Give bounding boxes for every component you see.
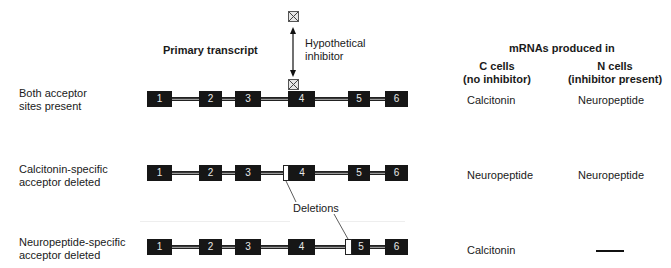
inhibitor-label-line2: inhibitor xyxy=(305,50,344,63)
exon-6: 6 xyxy=(385,165,408,181)
exon-2: 2 xyxy=(199,165,222,181)
row2-condition-line2: acceptor deleted xyxy=(19,176,100,189)
exon-3: 3 xyxy=(235,239,261,255)
row1-condition-line1: Both acceptor xyxy=(19,87,87,100)
inhibitor-label-line1: Hypothetical xyxy=(305,37,366,50)
bound-inhibitor-icon xyxy=(288,79,299,90)
exon-5: 5 xyxy=(352,239,370,255)
exon-5: 5 xyxy=(348,91,370,107)
row1-condition-line2: sites present xyxy=(19,100,81,113)
row1-n-cells-result: Neuropeptide xyxy=(578,94,644,107)
row2-condition-line1: Calcitonin-specific xyxy=(19,163,108,176)
exon-6: 6 xyxy=(385,91,408,107)
no-product-dash xyxy=(596,250,624,252)
double-arrow-icon xyxy=(287,27,299,77)
inhibitor-icon xyxy=(288,11,299,22)
separator-line xyxy=(340,221,405,222)
exon-1: 1 xyxy=(147,165,172,181)
exon-1: 1 xyxy=(147,239,172,255)
n-cells-header-line2: (inhibitor present) xyxy=(565,73,665,86)
exon-2: 2 xyxy=(199,91,222,107)
separator-line xyxy=(140,221,290,222)
exon-1: 1 xyxy=(147,91,172,107)
exon-3: 3 xyxy=(235,165,261,181)
c-cells-header-line1: C cells xyxy=(457,60,537,73)
deletions-label: Deletions xyxy=(293,202,339,215)
row1-c-cells-result: Calcitonin xyxy=(467,94,515,107)
exon-4: 4 xyxy=(288,239,315,255)
row3-c-cells-result: Calcitonin xyxy=(467,244,515,257)
row2-n-cells-result: Neuropeptide xyxy=(578,169,644,182)
exon-3: 3 xyxy=(235,91,261,107)
deleted-acceptor-site xyxy=(345,239,352,255)
row3-condition-line2: acceptor deleted xyxy=(19,249,100,262)
exon-4: 4 xyxy=(288,91,315,107)
results-header-title: mRNAs produced in xyxy=(509,42,615,55)
exon-6: 6 xyxy=(385,239,408,255)
c-cells-header-line2: (no inhibitor) xyxy=(457,73,537,86)
n-cells-header-line1: N cells xyxy=(565,60,665,73)
row3-condition-line1: Neuropeptide-specific xyxy=(19,236,125,249)
exon-2: 2 xyxy=(199,239,222,255)
row2-c-cells-result: Neuropeptide xyxy=(467,169,533,182)
primary-transcript-title: Primary transcript xyxy=(163,44,258,57)
